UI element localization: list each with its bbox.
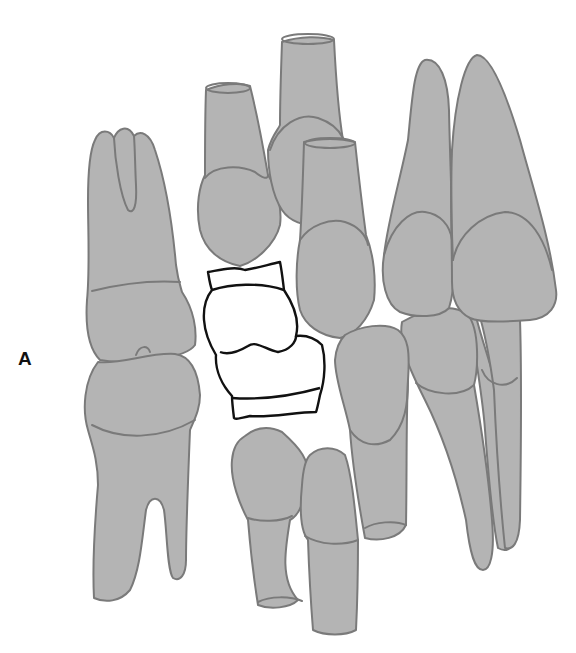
molar-left-lower <box>85 354 200 601</box>
dental-diagram <box>0 0 576 653</box>
incisor-upper-lateral <box>383 60 454 316</box>
premolar-lower-1 <box>232 428 309 608</box>
premolar-lower-2 <box>301 448 358 634</box>
incisor-upper-central <box>451 55 556 322</box>
premolar-upper-1 <box>198 83 281 266</box>
molar-left-upper <box>87 129 196 362</box>
premolar-upper-3 <box>297 138 375 338</box>
